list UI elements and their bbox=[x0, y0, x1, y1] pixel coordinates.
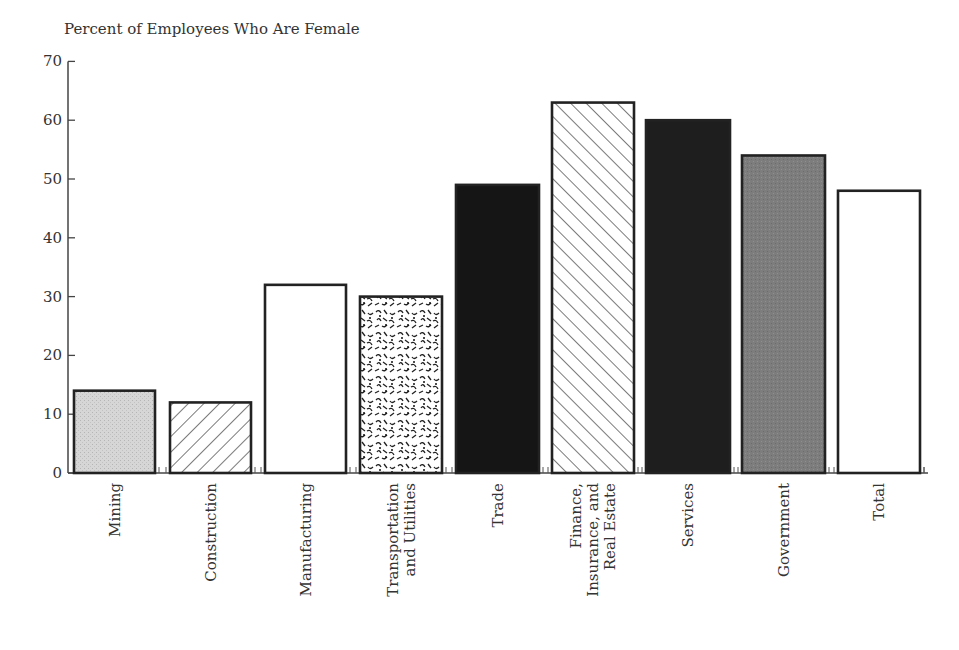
y-tick-label: 40 bbox=[43, 229, 62, 247]
y-tick-label: 50 bbox=[43, 170, 62, 188]
bar-finance-insurance-and-real-estate bbox=[552, 103, 634, 473]
bar-chart: 010203040506070 MiningConstructionManufa… bbox=[0, 0, 959, 650]
bar-services bbox=[646, 120, 730, 473]
category-label: Finance,Insurance, andReal Estate bbox=[567, 483, 619, 597]
category-label: Services bbox=[679, 483, 697, 548]
category-label-line: Mining bbox=[106, 483, 124, 537]
category-label-line: Transportation bbox=[384, 483, 402, 597]
category-label-line: Insurance, and bbox=[584, 483, 602, 597]
category-label-line: Manufacturing bbox=[297, 483, 315, 597]
category-label: Construction bbox=[202, 483, 220, 582]
y-tick-label: 0 bbox=[52, 464, 62, 482]
y-tick-label: 60 bbox=[43, 111, 62, 129]
category-label-line: Trade bbox=[489, 483, 507, 528]
category-label: Mining bbox=[106, 483, 124, 537]
category-label-line: Construction bbox=[202, 483, 220, 582]
y-tick-label: 70 bbox=[43, 52, 62, 70]
category-label: Government bbox=[775, 483, 793, 577]
bar-trade bbox=[456, 185, 539, 473]
category-label: Total bbox=[870, 483, 888, 521]
category-label: Manufacturing bbox=[297, 483, 315, 597]
category-label-line: Real Estate bbox=[601, 483, 619, 570]
category-label-line: Finance, bbox=[567, 483, 585, 549]
category-labels: MiningConstructionManufacturingTransport… bbox=[106, 483, 889, 597]
category-label-line: and Utilities bbox=[401, 483, 419, 576]
y-tick-label: 30 bbox=[43, 288, 62, 306]
category-label-line: Services bbox=[679, 483, 697, 548]
category-label: Trade bbox=[489, 483, 507, 528]
y-tick-label: 20 bbox=[43, 346, 62, 364]
bar-transportation-and-utilities bbox=[360, 297, 442, 473]
bar-mining bbox=[74, 391, 155, 473]
bars bbox=[74, 103, 920, 473]
bar-total bbox=[838, 191, 920, 473]
category-label-line: Government bbox=[775, 483, 793, 577]
bar-manufacturing bbox=[265, 285, 346, 473]
bar-construction bbox=[170, 402, 251, 473]
bar-government bbox=[742, 155, 825, 473]
y-tick-label: 10 bbox=[43, 405, 62, 423]
category-label: Transportationand Utilities bbox=[384, 483, 419, 597]
category-label-line: Total bbox=[870, 483, 888, 521]
